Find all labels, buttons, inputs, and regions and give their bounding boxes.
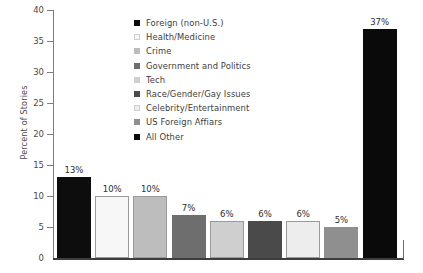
legend: Foreign (non-U.S.)Health/MedicineCrimeGo…	[134, 16, 314, 144]
legend-item: Foreign (non-U.S.)	[134, 16, 314, 30]
y-axis-tick	[47, 227, 54, 228]
legend-item-label: Race/Gender/Gay Issues	[146, 89, 251, 99]
y-axis-tick	[47, 134, 54, 135]
legend-item: US Foreign Affiars	[134, 115, 314, 129]
bar	[248, 221, 282, 258]
legend-item-label: Celebrity/Entertainment	[146, 103, 249, 113]
bar-value-label: 10%	[133, 185, 167, 194]
y-axis-tick-label: 25	[14, 99, 44, 108]
legend-swatch-icon	[134, 20, 140, 26]
y-axis-tick-label: 30	[14, 68, 44, 77]
bar-value-label: 7%	[172, 204, 206, 213]
legend-item-label: Foreign (non-U.S.)	[146, 18, 224, 28]
y-axis-tick	[47, 10, 54, 11]
legend-item-label: Crime	[146, 46, 171, 56]
bar-chart: Percent of Stories 0510152025303540 13%1…	[0, 0, 423, 273]
legend-swatch-icon	[134, 63, 140, 69]
legend-swatch-icon	[134, 34, 140, 40]
legend-item: Tech	[134, 73, 314, 87]
y-axis-tick-label: 10	[14, 192, 44, 201]
bar-value-label: 6%	[286, 210, 320, 219]
legend-swatch-icon	[134, 91, 140, 97]
bar-value-label: 5%	[324, 216, 358, 225]
bar	[210, 221, 244, 258]
y-axis-tick-label: 15	[14, 161, 44, 170]
y-axis-tick-label: 40	[14, 6, 44, 15]
legend-swatch-icon	[134, 105, 140, 111]
bar	[57, 177, 91, 258]
y-axis-tick	[47, 72, 54, 73]
bar-value-label: 13%	[57, 166, 91, 175]
legend-item-label: Health/Medicine	[146, 32, 215, 42]
y-axis-tick	[47, 196, 54, 197]
legend-item: Health/Medicine	[134, 30, 314, 44]
legend-item: Government and Politics	[134, 59, 314, 73]
bar	[133, 196, 167, 258]
y-axis-tick-label: 35	[14, 37, 44, 46]
y-axis-tick	[47, 103, 54, 104]
plot-right-border	[403, 240, 404, 259]
bar-value-label: 37%	[363, 18, 397, 27]
x-axis-line	[53, 258, 404, 260]
legend-item: All Other	[134, 130, 314, 144]
y-axis-tick-label: 5	[14, 223, 44, 232]
legend-swatch-icon	[134, 48, 140, 54]
legend-item-label: Government and Politics	[146, 61, 251, 71]
bar	[286, 221, 320, 258]
legend-item-label: Tech	[146, 75, 165, 85]
y-axis-tick	[47, 165, 54, 166]
y-axis-tick-label: 20	[14, 130, 44, 139]
legend-item: Crime	[134, 44, 314, 58]
legend-swatch-icon	[134, 134, 140, 140]
bar	[363, 29, 397, 258]
legend-item: Celebrity/Entertainment	[134, 101, 314, 115]
legend-swatch-icon	[134, 119, 140, 125]
bar	[324, 227, 358, 258]
y-axis-tick	[47, 41, 54, 42]
legend-item-label: US Foreign Affiars	[146, 117, 222, 127]
legend-item-label: All Other	[146, 132, 184, 142]
bar-value-label: 6%	[210, 210, 244, 219]
legend-swatch-icon	[134, 77, 140, 83]
bar-value-label: 10%	[95, 185, 129, 194]
bar	[95, 196, 129, 258]
bar-value-label: 6%	[248, 210, 282, 219]
bar	[172, 215, 206, 258]
legend-item: Race/Gender/Gay Issues	[134, 87, 314, 101]
y-axis-tick-label: 0	[14, 254, 44, 263]
